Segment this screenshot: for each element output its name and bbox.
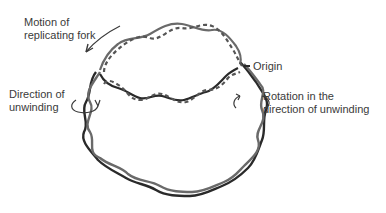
rotation-label: Rotation in the direction of unwinding — [263, 90, 369, 116]
origin-label: Origin — [253, 60, 282, 73]
rotation-label-line2: direction of unwinding — [263, 103, 369, 116]
unwinding-direction-label: Direction of unwinding — [9, 88, 65, 114]
fork-motion-label: Motion of replicating fork — [24, 16, 96, 42]
fork-motion-label-line2: replicating fork — [24, 29, 96, 42]
replicated-inner-arc — [100, 68, 240, 102]
replicated-upper-arc — [100, 24, 242, 72]
fork-motion-label-line1: Motion of — [24, 16, 96, 29]
unwinding-direction-label-line1: Direction of — [9, 88, 65, 101]
rotation-label-line1: Rotation in the — [263, 90, 369, 103]
unwinding-direction-label-line2: unwinding — [9, 101, 65, 114]
origin-label-text: Origin — [253, 60, 282, 72]
